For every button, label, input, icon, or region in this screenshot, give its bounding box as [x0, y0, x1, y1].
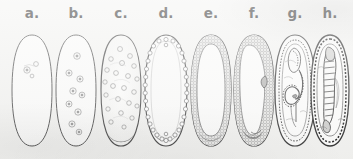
panel-b-label: b. — [52, 7, 100, 21]
panel-a: a. — [8, 0, 56, 159]
panel-h-embryo — [307, 32, 353, 150]
yolk-interior — [240, 45, 265, 135]
panel-d-embryo — [140, 32, 192, 150]
embryo-drawing-c — [96, 32, 146, 150]
embryo-drawing-d — [140, 32, 192, 150]
panel-a-label: a. — [8, 7, 56, 21]
panel-c-embryo — [96, 32, 146, 150]
panel-d-label: d. — [140, 7, 192, 21]
panel-b-embryo — [52, 32, 100, 150]
embryo-drawing-a — [8, 32, 56, 150]
chorion-outline — [12, 35, 52, 146]
chorion-outline — [101, 35, 141, 146]
panel-c: c. — [96, 0, 146, 159]
embryo-drawing-h — [307, 32, 353, 150]
panel-a-embryo — [8, 32, 56, 150]
yolk-interior — [197, 44, 225, 136]
panel-h: h. — [307, 0, 353, 159]
panel-b: b. — [52, 0, 100, 159]
embryo-development-figure: a. b. — [0, 0, 353, 159]
panel-c-label: c. — [96, 7, 146, 21]
panel-d: d. — [140, 0, 192, 159]
panel-h-label: h. — [307, 7, 353, 21]
germ-band-spiral-core — [293, 94, 297, 98]
embryo-drawing-b — [52, 32, 100, 150]
